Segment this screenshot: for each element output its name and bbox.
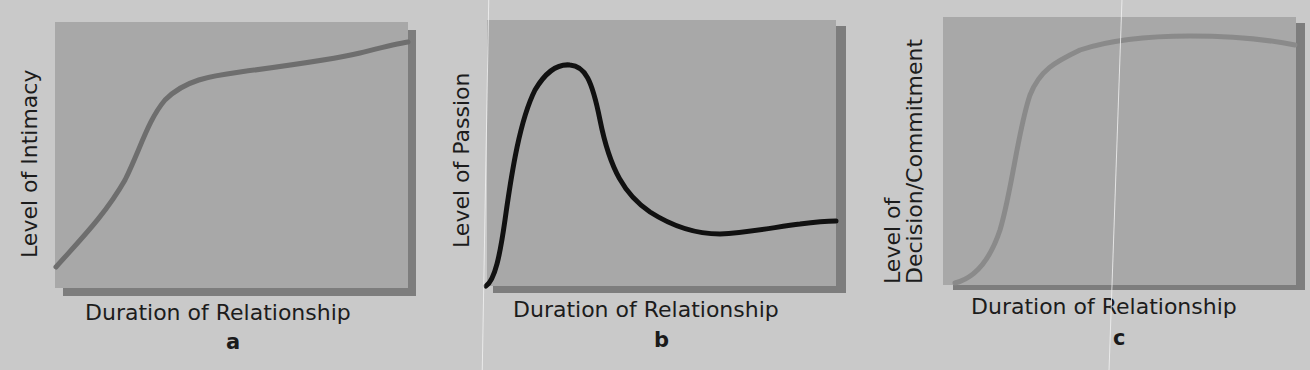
x-axis-label: Duration of Relationship: [971, 294, 1237, 319]
y-axis-label-line2: Decision/Commitment: [904, 39, 926, 284]
y-axis-label-line1: Level of: [882, 39, 904, 284]
panel-letter: c: [1113, 326, 1125, 350]
figure: Level of Intimacy Duration of Relationsh…: [0, 0, 1310, 370]
panel-c: Level of Decision/Commitment Duration of…: [0, 0, 1310, 370]
y-axis-label: Level of Decision/Commitment: [882, 39, 926, 284]
